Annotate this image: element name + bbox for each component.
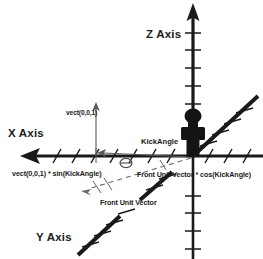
diagram-canvas: Z Axis X Axis Y Axis vect(0,0,1) KickAng…: [0, 0, 263, 259]
y-axis-line-upper-right: [193, 96, 258, 156]
unit-vector-z-label: vect(0,0,1): [66, 110, 97, 117]
cos-component-label: Front Unit Vector * cos(KickAngle): [137, 171, 251, 178]
front-unit-vector-label: Front Unit Vector: [100, 199, 157, 206]
x-axis-label: X Axis: [8, 128, 44, 140]
z-axis-label: Z Axis: [146, 29, 181, 41]
cos-component-tick-a: [104, 178, 112, 190]
cos-component-tick-c: [160, 160, 166, 170]
x-axis-group: [20, 148, 263, 164]
cos-component-arrowhead-icon: [81, 189, 91, 196]
kick-angle-label: KickAngle: [141, 138, 178, 146]
sin-component-label: vect(0,0,1) * sin(KickAngle): [12, 170, 101, 177]
angle-arc-icon: [120, 158, 132, 167]
y-axis-label: Y Axis: [36, 232, 72, 244]
y-axis-line-lower-left: [78, 216, 120, 255]
